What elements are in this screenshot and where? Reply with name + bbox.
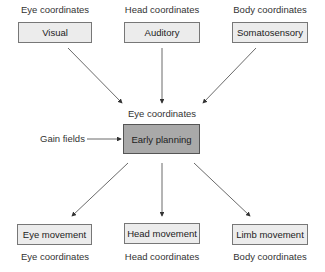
arrow-visual-to-planning: [68, 48, 122, 103]
visual-box: Visual: [18, 22, 92, 43]
auditory-box: Auditory: [124, 22, 200, 43]
head-movement-coordinates-label: Head coordinates: [118, 251, 206, 262]
arrow-somatosensory-to-planning: [203, 48, 256, 103]
eye-movement-coordinates-label: Eye coordinates: [14, 251, 96, 262]
limb-movement-coordinates-label: Body coordinates: [226, 251, 314, 262]
gain-fields-label: Gain fields: [40, 133, 86, 144]
somatosensory-box: Somatosensory: [232, 22, 308, 43]
auditory-coordinates-label: Head coordinates: [118, 4, 206, 15]
sensorimotor-diagram: Eye coordinates Visual Head coordinates …: [0, 0, 325, 272]
head-movement-box: Head movement: [124, 223, 200, 244]
limb-movement-box: Limb movement: [232, 224, 308, 245]
arrow-planning-to-limb: [194, 163, 250, 216]
planning-coordinates-label: Eye coordinates: [118, 108, 206, 119]
early-planning-box: Early planning: [123, 124, 200, 154]
eye-movement-box: Eye movement: [17, 224, 92, 245]
visual-coordinates-label: Eye coordinates: [14, 4, 96, 15]
arrow-planning-to-eye: [72, 163, 128, 216]
somatosensory-coordinates-label: Body coordinates: [226, 4, 314, 15]
